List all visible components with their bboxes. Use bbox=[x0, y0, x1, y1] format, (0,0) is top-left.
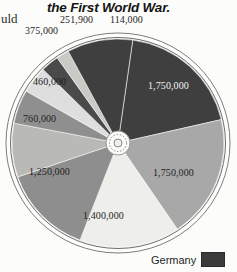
value-label-germany: 1,750,000 bbox=[148, 80, 189, 91]
value-label-light-wedge: 114,000 bbox=[110, 14, 143, 25]
pie-hub-inner bbox=[114, 139, 122, 147]
value-label-bottom-pale: 1,400,000 bbox=[83, 210, 124, 221]
value-label-mid-left: 760,000 bbox=[23, 113, 56, 124]
adjacent-body-text-fragment: uld bbox=[1, 11, 18, 27]
chart-title: the First World War. bbox=[47, 0, 170, 15]
legend-swatch-germany bbox=[201, 252, 225, 267]
legend: Germany bbox=[151, 252, 225, 267]
value-label-lower-left: 1,250,000 bbox=[29, 166, 70, 177]
value-label-pale-wedge: 375,000 bbox=[25, 25, 58, 36]
legend-item-label-germany: Germany bbox=[151, 254, 196, 266]
value-label-right-grey: 1,750,000 bbox=[153, 167, 194, 178]
value-label-upper-left: 460,000 bbox=[33, 76, 66, 87]
value-label-dark-wedge: 251,900 bbox=[60, 14, 93, 25]
